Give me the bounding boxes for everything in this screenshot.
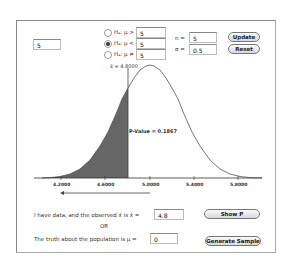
tick-label: 5.8000 <box>230 182 247 187</box>
tick-label: 5.0000 <box>142 182 159 187</box>
truth-input[interactable]: 0 <box>150 233 178 244</box>
truth-text: The truth about the population is μ = <box>34 236 137 242</box>
observed-input[interactable]: 4.8 <box>154 209 184 220</box>
tick-label: 4.6000 <box>97 182 114 187</box>
show-p-button[interactable]: Show P <box>204 209 260 219</box>
xbar-label: x̄ = 4.8000 <box>110 63 138 69</box>
observed-text: I have data, and the observed x̄ is x̄ = <box>34 212 139 218</box>
tick-label: 5.4000 <box>186 182 203 187</box>
generate-sample-button[interactable]: Generate Sample <box>205 236 261 246</box>
normal-curve-chart <box>0 0 291 270</box>
pvalue-label: P-Value = 0.1867 <box>129 128 177 134</box>
tick-label: 4.2000 <box>53 182 70 187</box>
or-text: OR <box>100 223 108 229</box>
